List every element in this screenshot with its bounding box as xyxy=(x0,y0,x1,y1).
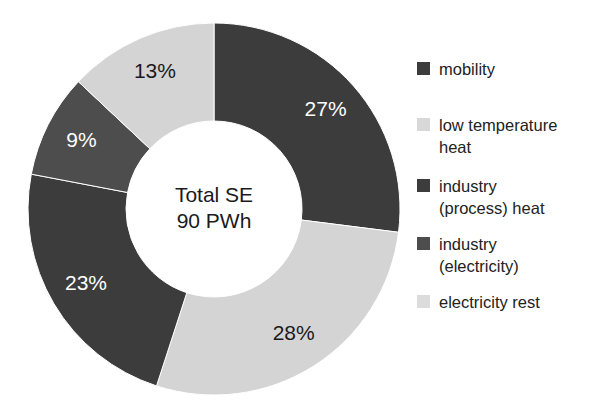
legend-color-swatch xyxy=(417,118,430,131)
donut-chart-area: 27%28%23%9%13% Total SE 90 PWh xyxy=(0,0,420,417)
slice-value-label: 23% xyxy=(65,271,107,294)
legend-item[interactable]: industry (process) heat xyxy=(417,175,611,219)
donut-slice[interactable] xyxy=(157,220,399,395)
legend-color-swatch xyxy=(417,62,430,75)
legend-item-label: industry (process) heat xyxy=(439,175,544,219)
legend-item[interactable]: low temperature heat xyxy=(417,114,611,158)
legend-item[interactable]: industry (electricity) xyxy=(417,233,611,277)
slice-value-label: 13% xyxy=(134,59,176,82)
slice-value-label: 28% xyxy=(273,321,315,344)
slice-value-label: 27% xyxy=(305,97,347,120)
legend-item-label: low temperature heat xyxy=(439,114,557,158)
legend-item[interactable]: electricity rest xyxy=(417,291,611,313)
center-total-label: Total SE xyxy=(175,183,253,206)
slice-value-label: 9% xyxy=(66,128,96,151)
legend-item-label: electricity rest xyxy=(439,291,540,313)
center-total-value: 90 PWh xyxy=(177,209,252,232)
legend-item-label: mobility xyxy=(439,58,495,80)
donut-svg: 27%28%23%9%13% Total SE 90 PWh xyxy=(0,0,420,417)
donut-slice[interactable] xyxy=(28,174,187,386)
legend-color-swatch xyxy=(417,179,430,192)
chart-legend: mobilitylow temperature heatindustry (pr… xyxy=(417,58,611,327)
legend-item[interactable]: mobility xyxy=(417,58,611,80)
legend-item-label: industry (electricity) xyxy=(439,233,519,277)
legend-color-swatch xyxy=(417,237,430,250)
legend-color-swatch xyxy=(417,295,430,308)
donut-chart-figure: 27%28%23%9%13% Total SE 90 PWh mobilityl… xyxy=(0,0,611,417)
